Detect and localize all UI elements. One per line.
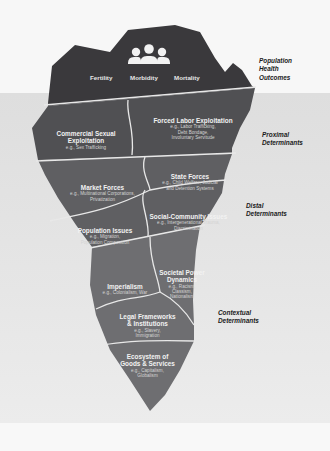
segment-market-forces: Market Forces e.g., Multinational Corpor… xyxy=(55,184,150,202)
outcome-fertility: Fertility xyxy=(90,74,112,81)
segment-forced-labor-exploitation: Forced Labor Exploitation e.g., Labor Tr… xyxy=(148,117,238,140)
segment-ecosystem-goods-services: Ecosystem of Goods & Services e.g., Capi… xyxy=(110,353,185,378)
iceberg-diagram: Fertility Morbidity Mortality Population… xyxy=(0,0,330,451)
segment-state-forces: State Forces e.g., Child Welfare, Judici… xyxy=(150,173,230,191)
segment-societal-power-dynamics: Societal Power Dynamics e.g., Racism, Cl… xyxy=(158,269,206,300)
segment-legal-frameworks-institutions: Legal Frameworks & Institutions e.g., Sl… xyxy=(110,313,185,338)
outcome-morbidity: Morbidity xyxy=(130,74,158,81)
segment-imperialism: Imperialism e.g., Colonialism, War xyxy=(95,283,155,296)
outcome-mortality: Mortality xyxy=(174,74,200,81)
segment-social-community-issues: Social-Community Issues e.g., Intergener… xyxy=(146,213,231,231)
segment-population-issues: Population Issues e.g., Migration, Popul… xyxy=(65,227,145,245)
label-proximal-determinants: Proximal Determinants xyxy=(262,131,303,148)
segment-commercial-sexual-exploitation: Commercial Sexual Exploitation e.g., Sex… xyxy=(40,130,132,150)
label-contextual-determinants: Contextual Determinants xyxy=(218,309,259,326)
label-distal-determinants: Distal Determinants xyxy=(246,202,287,219)
label-population-health-outcomes: Population Health Outcomes xyxy=(259,57,292,82)
